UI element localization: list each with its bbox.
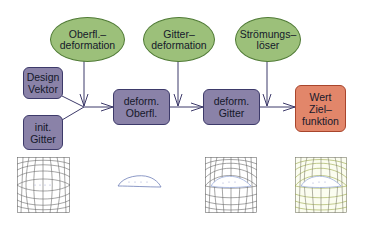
grid-deformation-node: Gitter– deformation bbox=[143, 17, 215, 62]
deformed-grid-label-2: Gitter bbox=[219, 107, 245, 119]
flow-solver-label-1: Strömungs– bbox=[240, 29, 297, 40]
objective-value-label-2: Ziel– bbox=[309, 103, 332, 115]
grid-deformation-label-1: Gitter– bbox=[163, 29, 195, 40]
deformed-grid-node: deform. Gitter bbox=[203, 89, 260, 125]
surface-deformation-node: Oberfl.– deformation bbox=[50, 17, 125, 62]
initial-grid-node: init. Gitter bbox=[23, 115, 63, 150]
deformed-surface-label-2: Oberfl. bbox=[126, 107, 158, 119]
objective-value-node: Wert Ziel– funktion bbox=[295, 85, 346, 132]
deformed-airfoil-image bbox=[117, 172, 162, 190]
design-vector-node: Design Vektor bbox=[23, 67, 63, 99]
design-vector-label-1: Design bbox=[27, 71, 60, 83]
design-vector-label-2: Vektor bbox=[28, 83, 58, 95]
optimization-flow-diagram: Oberfl.– deformation Gitter– deformation… bbox=[0, 0, 365, 226]
deformed-surface-label-1: deform. bbox=[124, 95, 160, 107]
surface-deformation-label-2: deformation bbox=[60, 40, 115, 51]
initial-grid-label-2: Gitter bbox=[30, 133, 56, 145]
deformed-grid-label-1: deform. bbox=[214, 95, 250, 107]
flow-solver-label-2: löser bbox=[257, 40, 280, 51]
initial-grid-mesh-image bbox=[17, 157, 70, 213]
surface-deformation-label-1: Oberfl.– bbox=[69, 29, 106, 40]
deformed-surface-node: deform. Oberfl. bbox=[113, 89, 170, 125]
flow-solver-node: Strömungs– löser bbox=[235, 17, 301, 62]
deformed-grid-mesh-image bbox=[205, 157, 257, 213]
objective-value-label-1: Wert bbox=[310, 91, 332, 103]
initial-grid-label-1: init. bbox=[35, 121, 51, 133]
flow-solution-mesh-image bbox=[295, 157, 347, 213]
grid-deformation-label-2: deformation bbox=[151, 40, 206, 51]
objective-value-label-3: funktion bbox=[302, 115, 339, 127]
